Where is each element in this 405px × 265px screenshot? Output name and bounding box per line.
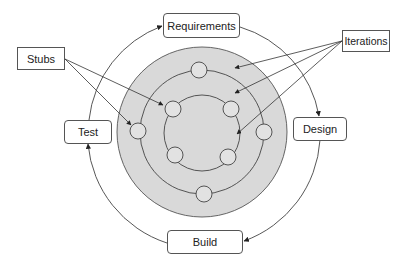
iterations-arrow-1 [235,41,342,68]
build-box: Build [167,230,243,254]
requirements-box: Requirements [163,13,240,38]
inner-node-top-left [165,101,181,117]
inner-node-bottom-right [220,149,236,165]
requirements-label: Requirements [167,20,235,32]
build-label: Build [193,236,217,248]
inner-node-top-right [223,101,239,117]
stubs-label: Stubs [27,53,55,65]
middle-node-bottom [196,186,212,202]
middle-node-top [191,62,207,78]
design-label: Design [303,123,337,135]
stubs-box: Stubs [17,47,65,70]
test-box: Test [64,120,112,144]
design-box: Design [293,117,347,141]
inner-node-bottom-left [167,147,183,163]
stubs-arrow-2 [65,59,131,125]
middle-node-right [256,124,272,140]
middle-node-left [130,123,146,139]
test-label: Test [78,126,98,138]
iterations-label: Iterations [344,35,387,47]
iterations-box: Iterations [342,30,390,52]
